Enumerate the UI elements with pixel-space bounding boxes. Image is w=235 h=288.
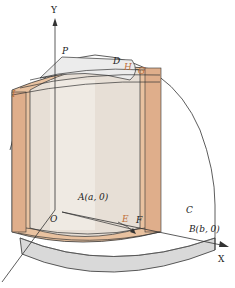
shell-left-face [12,92,26,232]
label-c: C [186,205,193,215]
label-o: O [50,214,58,224]
x-axis-arrow-icon [219,241,229,247]
label-g: G [138,66,145,76]
label-i: I [11,89,16,99]
label-d: D [112,56,120,66]
label-a: A(a, 0) [77,192,109,202]
label-y-axis: Y [50,5,58,15]
base-ring [20,238,215,272]
shell-method-diagram: Y X P D H G I O A(a, 0) E F C B(b, 0) [0,0,235,288]
label-f: F [135,215,143,225]
label-b: B(b, 0) [188,224,220,234]
y-axis-arrow-icon [53,18,58,26]
label-p: P [61,46,69,56]
label-e: E [121,214,129,224]
label-h: H [123,62,132,72]
cylinder-highlight [50,80,95,230]
shell-right-face [145,68,161,232]
label-x-axis: X [218,254,225,264]
